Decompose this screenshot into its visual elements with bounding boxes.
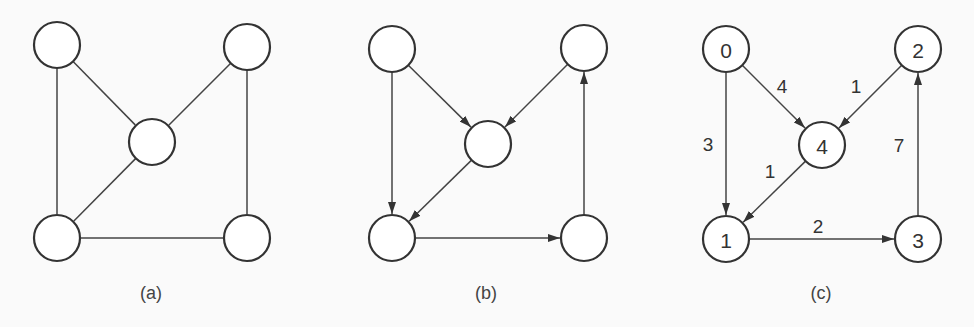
edge-2-to-4 <box>839 65 902 128</box>
graph-node <box>129 119 175 165</box>
panel-b-directed-graph: (b) <box>369 25 607 303</box>
graph-node <box>369 215 415 261</box>
edge-weight-label: 1 <box>851 76 862 97</box>
graph-node <box>34 22 80 68</box>
panel-caption: (c) <box>811 283 832 303</box>
edge-tr-to-c <box>169 63 231 125</box>
node-label: 4 <box>816 135 828 158</box>
graph-node <box>224 24 270 70</box>
edge-c-to-bl <box>409 160 471 221</box>
edge-weight-label: 2 <box>813 216 824 237</box>
edge-weight-label: 4 <box>777 76 788 97</box>
graph-figure: (a) (b) 34112702413(c) <box>0 0 974 327</box>
node-label: 3 <box>912 229 924 252</box>
graph-node <box>34 215 80 261</box>
panel-caption: (b) <box>475 283 497 303</box>
graph-node <box>465 121 511 167</box>
node-label: 0 <box>720 39 732 62</box>
panel-a-undirected-graph: (a) <box>34 22 270 303</box>
edge-tl-to-c <box>73 61 135 124</box>
edge-weight-label: 3 <box>703 134 714 155</box>
panel-caption: (a) <box>140 283 162 303</box>
graph-node <box>369 26 415 72</box>
edge-0-to-4 <box>742 65 805 128</box>
graph-node <box>561 215 607 261</box>
panel-c-weighted-directed-graph: 34112702413(c) <box>703 26 941 303</box>
graph-node <box>561 25 607 71</box>
node-label: 1 <box>720 229 732 252</box>
graph-node <box>224 215 270 261</box>
node-label: 2 <box>912 39 924 62</box>
edge-tl-to-c <box>408 65 471 127</box>
edge-weight-label: 1 <box>765 161 776 182</box>
edge-weight-label: 7 <box>894 135 905 156</box>
edge-tr-to-c <box>505 64 568 127</box>
edge-c-to-bl <box>74 158 136 221</box>
